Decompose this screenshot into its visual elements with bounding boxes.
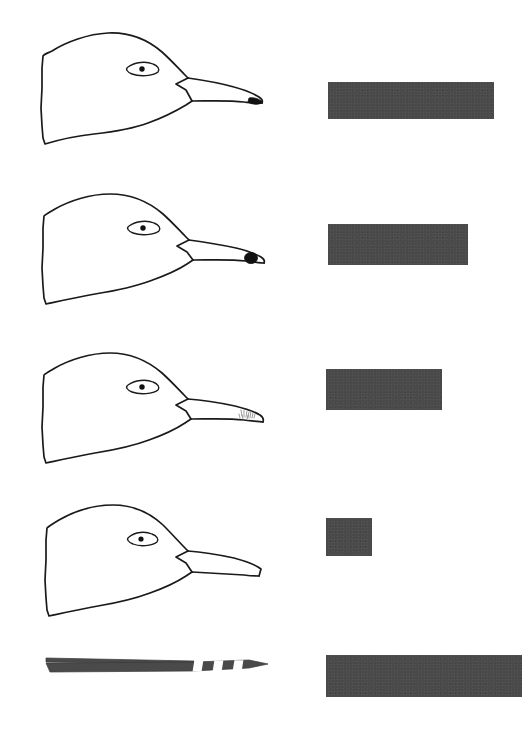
plate-row-4	[0, 465, 529, 620]
plate-row-5	[0, 620, 529, 733]
plate-row-1	[0, 0, 529, 160]
bird-head-profile-3	[36, 348, 276, 473]
bird-head-profile-1	[36, 28, 276, 158]
measurement-bar-4	[326, 518, 372, 556]
bird-head-profile-2	[36, 190, 276, 315]
feather-band-3	[233, 660, 244, 671]
banded-feather	[44, 650, 274, 710]
plate-row-3	[0, 310, 529, 465]
measurement-bar-1	[328, 82, 494, 119]
plate-row-2	[0, 160, 529, 310]
feather-band-1	[193, 661, 204, 672]
measurement-bar-2	[328, 224, 468, 265]
figure-plate	[0, 0, 529, 733]
measurement-bar-5	[326, 655, 522, 697]
bird-head-profile-4	[38, 500, 278, 625]
feather-band-2	[213, 660, 224, 671]
measurement-bar-3	[326, 369, 442, 410]
